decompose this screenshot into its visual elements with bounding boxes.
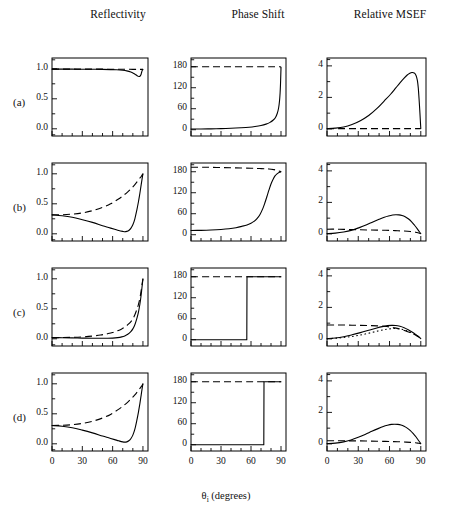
y-tick-label: 120	[153, 81, 187, 91]
x-tick-label: 30	[209, 456, 233, 466]
curves-d-reflectivity	[52, 384, 143, 442]
y-tick-label: 0.5	[14, 302, 48, 312]
y-tick-label: 60	[153, 102, 187, 112]
y-tick-label: 0.0	[14, 332, 48, 342]
y-tick-label: 0	[289, 122, 323, 132]
y-tick-label: 0.0	[14, 227, 48, 237]
y-tick-label: 0	[153, 123, 187, 133]
series-p-polarized	[52, 279, 143, 339]
panel-c-reflectivity	[52, 268, 148, 346]
panel-frame	[191, 58, 286, 136]
x-axis-label: θi (degrees)	[126, 490, 326, 504]
y-tick-label: 4	[289, 269, 323, 279]
curves-b-relative_msef	[327, 215, 421, 234]
x-tick-label: 90	[131, 456, 155, 466]
y-tick-label: 0	[289, 332, 323, 342]
panel-d-reflectivity	[52, 373, 148, 451]
y-tick-label: 0	[153, 438, 187, 448]
x-tick-label: 90	[409, 456, 433, 466]
curves-a-reflectivity	[52, 69, 143, 76]
y-tick-label: 60	[153, 207, 187, 217]
panel-b-reflectivity	[52, 163, 148, 241]
x-tick-label: 30	[346, 456, 370, 466]
panel-frame	[52, 163, 148, 241]
series-msef-peak	[327, 72, 421, 128]
panel-frame	[52, 268, 148, 346]
x-axis-label-unit: (degrees)	[209, 490, 251, 501]
panel-frame	[191, 163, 286, 241]
series-p-polarized	[191, 172, 281, 231]
y-tick-label: 180	[153, 270, 187, 280]
series-p-polarized	[52, 174, 143, 232]
curves-c-reflectivity	[52, 279, 143, 339]
series-p-polarized	[52, 384, 143, 442]
panel-c-relative_msef	[327, 268, 426, 346]
panel-d-relative_msef	[327, 373, 426, 451]
y-tick-label: 1.0	[14, 377, 48, 387]
panel-frame	[191, 268, 286, 346]
panel-frame	[191, 373, 286, 451]
panel-frame	[327, 373, 426, 451]
y-tick-label: 2	[289, 300, 323, 310]
x-tick-label: 30	[70, 456, 94, 466]
curves-c-phase_shift	[191, 277, 281, 340]
y-tick-label: 120	[153, 291, 187, 301]
y-tick-label: 1.0	[14, 272, 48, 282]
curves-b-reflectivity	[52, 174, 143, 232]
x-tick-label: 90	[269, 456, 293, 466]
x-tick-label: 0	[315, 456, 339, 466]
y-tick-label: 120	[153, 186, 187, 196]
y-tick-label: 2	[289, 405, 323, 415]
panel-frame	[327, 58, 426, 136]
y-tick-label: 60	[153, 417, 187, 427]
series-s-polarized	[52, 384, 143, 426]
panel-frame	[327, 268, 426, 346]
curves-c-relative_msef	[327, 325, 421, 339]
y-tick-label: 120	[153, 396, 187, 406]
curves-b-phase_shift	[191, 167, 281, 230]
x-tick-label: 0	[40, 456, 64, 466]
y-tick-label: 0	[153, 333, 187, 343]
series-p-polarized-step	[191, 277, 281, 340]
y-tick-label: 0	[289, 437, 323, 447]
y-tick-label: 180	[153, 165, 187, 175]
panel-c-phase_shift	[191, 268, 286, 346]
y-tick-label: 180	[153, 375, 187, 385]
curves-d-relative_msef	[327, 424, 421, 443]
y-tick-label: 4	[289, 374, 323, 384]
y-tick-label: 0.5	[14, 407, 48, 417]
y-tick-label: 2	[289, 90, 323, 100]
curves-d-phase_shift	[191, 382, 281, 445]
y-tick-label: 0.5	[14, 197, 48, 207]
panel-d-phase_shift	[191, 373, 286, 451]
y-tick-label: 0.0	[14, 437, 48, 447]
curves-a-relative_msef	[327, 72, 421, 128]
curves-a-phase_shift	[191, 67, 281, 129]
y-tick-label: 0	[153, 228, 187, 238]
series-s-polarized	[191, 167, 281, 172]
series-p-polarized	[191, 68, 281, 129]
figure-panel-grid: Reflectivity Phase Shift Relative MSEF (…	[0, 0, 453, 524]
y-tick-label: 180	[153, 60, 187, 70]
y-tick-label: 1.0	[14, 167, 48, 177]
series-s-polarized	[191, 67, 281, 68]
panel-b-phase_shift	[191, 163, 286, 241]
y-tick-label: 0	[289, 227, 323, 237]
y-tick-label: 2	[289, 195, 323, 205]
y-tick-label: 1.0	[14, 62, 48, 72]
x-tick-label: 60	[101, 456, 125, 466]
x-tick-label: 60	[378, 456, 402, 466]
x-tick-label: 60	[239, 456, 263, 466]
series-s-polarized	[52, 174, 143, 215]
y-tick-label: 4	[289, 59, 323, 69]
y-tick-label: 60	[153, 312, 187, 322]
series-s-polarized	[52, 279, 143, 338]
plot-vector-layer	[0, 0, 453, 524]
panel-a-relative_msef	[327, 58, 426, 136]
y-tick-label: 0.5	[14, 92, 48, 102]
panel-a-phase_shift	[191, 58, 286, 136]
series-p-polarized-step	[191, 382, 281, 445]
panel-frame	[52, 373, 148, 451]
y-tick-label: 4	[289, 164, 323, 174]
series-p-polarized	[52, 69, 143, 76]
